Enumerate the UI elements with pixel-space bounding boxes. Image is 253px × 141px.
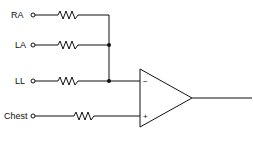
op-amp: − + (140, 69, 252, 127)
op-amp-triangle (140, 69, 192, 127)
junction-dot (107, 79, 111, 83)
terminal-la (31, 43, 35, 47)
resistor-la-wire (35, 41, 109, 49)
resistor-ll-wire (35, 77, 140, 85)
resistor-ra-wire (35, 11, 109, 81)
inverting-input-symbol: − (143, 77, 148, 86)
label-ll: LL (15, 76, 25, 86)
label-ra: RA (11, 10, 24, 20)
junction-dot (107, 43, 111, 47)
noninverting-input-symbol: + (143, 112, 148, 121)
circuit-diagram: RA LA LL Chest − + (0, 0, 253, 141)
terminal-chest (31, 114, 35, 118)
label-chest: Chest (4, 111, 28, 121)
input-la: LA (15, 40, 111, 50)
resistor-chest-wire (35, 112, 140, 120)
input-chest: Chest (4, 111, 140, 121)
label-la: LA (15, 40, 26, 50)
terminal-ll (31, 79, 35, 83)
input-ll: LL (15, 76, 140, 86)
terminal-ra (31, 13, 35, 17)
